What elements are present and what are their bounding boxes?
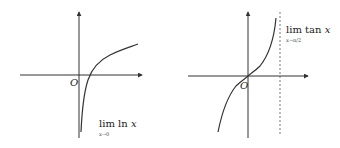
lim-text: lim [99, 118, 115, 129]
var-text: x [325, 24, 331, 35]
tan-curve [218, 18, 276, 132]
lim-text: lim [286, 24, 302, 35]
limit-subscript: x→π/2 [286, 37, 330, 43]
var-text: x [131, 118, 137, 129]
right-origin-label: O [240, 80, 248, 91]
limit-subscript: x→0 [99, 131, 137, 137]
left-origin-label: O [70, 77, 78, 88]
left-limit-label: lim ln x x→0 [99, 112, 137, 137]
func-text: ln [118, 118, 128, 129]
func-text: tan [305, 24, 321, 35]
right-limit-label: lim tan x x→π/2 [286, 18, 330, 43]
